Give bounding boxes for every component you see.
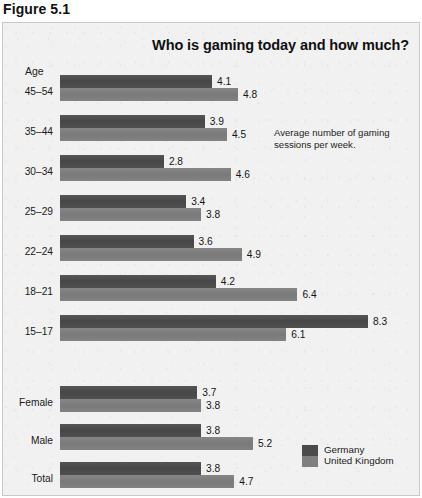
bar-value-label: 3.8 <box>206 462 220 475</box>
bar-track: 3.8 <box>60 208 400 221</box>
bar-germany <box>60 155 164 168</box>
bar-value-label: 6.4 <box>302 288 316 301</box>
bar-uk <box>60 399 201 412</box>
bar-track: 4.2 <box>60 275 400 288</box>
bar-germany <box>60 235 194 248</box>
bar-value-label: 4.1 <box>217 75 231 88</box>
bar-germany <box>60 386 197 399</box>
bar-row: 45–544.14.8 <box>3 75 420 101</box>
bar-track: 6.4 <box>60 288 400 301</box>
bar-uk <box>60 128 227 141</box>
bar-track: 3.4 <box>60 195 400 208</box>
bar-track: 6.1 <box>60 328 400 341</box>
bar-row: 30–342.84.6 <box>3 155 420 181</box>
row-label: 30–34 <box>3 166 53 177</box>
bar-track: 3.6 <box>60 235 400 248</box>
bar-uk <box>60 328 286 341</box>
legend-label-germany: Germany <box>324 444 364 455</box>
bar-germany <box>60 424 201 437</box>
bar-uk <box>60 168 231 181</box>
bar-row: Female3.73.8 <box>3 386 420 412</box>
bar-value-label: 5.2 <box>258 437 272 450</box>
bar-value-label: 4.9 <box>247 248 261 261</box>
row-label: Male <box>3 435 53 446</box>
bar-germany <box>60 275 216 288</box>
row-label: 25–29 <box>3 206 53 217</box>
bar-track: 4.7 <box>60 475 400 488</box>
bar-track: 4.9 <box>60 248 400 261</box>
row-label: Female <box>3 397 53 408</box>
bar-value-label: 8.3 <box>373 315 387 328</box>
row-label: 22–24 <box>3 246 53 257</box>
bar-track: 2.8 <box>60 155 400 168</box>
bar-value-label: 4.6 <box>236 168 250 181</box>
chart-legend: Germany United Kingdom <box>302 444 414 470</box>
plot-area: 45–544.14.835–443.94.530–342.84.625–293.… <box>3 23 420 496</box>
bar-track: 3.7 <box>60 386 400 399</box>
figure-root: Figure 5.1 Who is gaming today and how m… <box>0 0 422 498</box>
chart-frame: Who is gaming today and how much? Age Av… <box>2 22 420 496</box>
bar-uk <box>60 248 242 261</box>
bar-value-label: 6.1 <box>291 328 305 341</box>
bar-uk <box>60 475 234 488</box>
bar-value-label: 4.7 <box>239 475 253 488</box>
bar-value-label: 4.8 <box>243 88 257 101</box>
bar-value-label: 3.4 <box>191 195 205 208</box>
bar-uk <box>60 208 201 221</box>
row-label: Total <box>3 473 53 484</box>
legend-swatch-germany <box>302 445 318 456</box>
bar-value-label: 3.8 <box>206 424 220 437</box>
bar-track: 4.8 <box>60 88 400 101</box>
bar-germany <box>60 462 201 475</box>
row-label: 18–21 <box>3 286 53 297</box>
bar-row: 15–178.36.1 <box>3 315 420 341</box>
bar-track: 4.5 <box>60 128 400 141</box>
bar-uk <box>60 288 297 301</box>
bar-track: 8.3 <box>60 315 400 328</box>
bar-row: 25–293.43.8 <box>3 195 420 221</box>
row-label: 15–17 <box>3 326 53 337</box>
bar-uk <box>60 88 238 101</box>
bar-value-label: 3.6 <box>199 235 213 248</box>
bar-value-label: 3.8 <box>206 208 220 221</box>
bar-track: 3.8 <box>60 399 400 412</box>
bar-track: 3.9 <box>60 115 400 128</box>
bar-row: 18–214.26.4 <box>3 275 420 301</box>
bar-value-label: 4.2 <box>221 275 235 288</box>
legend-swatch-group <box>302 445 318 467</box>
figure-caption: Figure 5.1 <box>3 1 70 17</box>
bar-value-label: 2.8 <box>169 155 183 168</box>
row-label: 45–54 <box>3 86 53 97</box>
bar-uk <box>60 437 253 450</box>
bar-row: 35–443.94.5 <box>3 115 420 141</box>
bar-germany <box>60 315 368 328</box>
bar-track: 4.1 <box>60 75 400 88</box>
legend-label-united-kingdom: United Kingdom <box>324 455 394 466</box>
row-label: 35–44 <box>3 126 53 137</box>
legend-swatch-united-kingdom <box>302 456 318 467</box>
bar-value-label: 4.5 <box>232 128 246 141</box>
bar-germany <box>60 75 212 88</box>
bar-track: 4.6 <box>60 168 400 181</box>
bar-germany <box>60 115 205 128</box>
bar-track: 3.8 <box>60 424 400 437</box>
bar-value-label: 3.7 <box>202 386 216 399</box>
bar-row: 22–243.64.9 <box>3 235 420 261</box>
bar-germany <box>60 195 186 208</box>
bar-value-label: 3.9 <box>210 115 224 128</box>
bar-value-label: 3.8 <box>206 399 220 412</box>
